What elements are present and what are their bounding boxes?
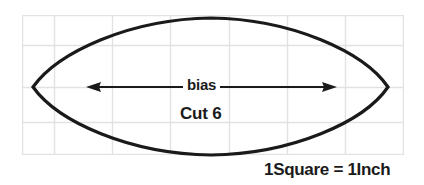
bias-label: bias	[183, 76, 220, 94]
sewing-pattern-figure: bias Cut 6 1Square = 1Inch	[0, 0, 424, 185]
cut-quantity-label: Cut 6	[180, 104, 222, 124]
scale-caption: 1Square = 1Inch	[264, 160, 390, 180]
